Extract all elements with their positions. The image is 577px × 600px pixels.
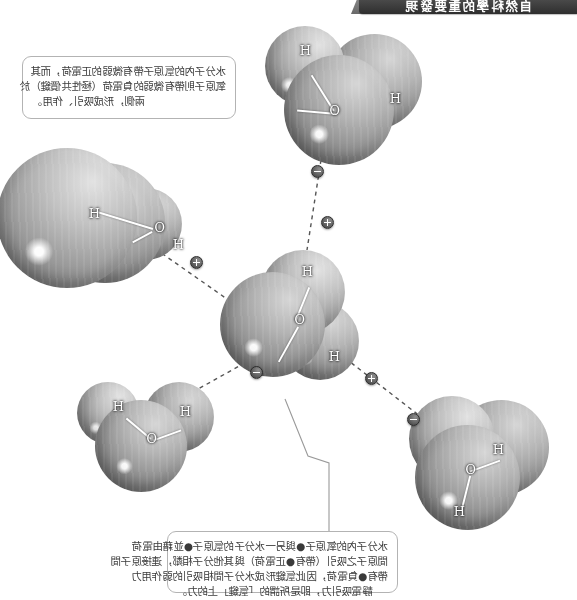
atom-label-o: O (146, 432, 157, 445)
atom-label-h: H (180, 405, 191, 418)
atom-label-h: H (493, 443, 504, 456)
atom-label-o: O (329, 104, 340, 117)
delta-negative-icon (311, 165, 324, 178)
atom-label-h: H (454, 505, 465, 518)
caption-box-polar-bond: 水分子內的氫原子帶有微弱的正電荷，而其 氧原子則帶有微弱的負電荷（極性共價鍵）於… (22, 56, 236, 119)
delta-positive-icon (321, 216, 334, 229)
delta-negative-icon (407, 413, 420, 426)
atom-label-h: H (300, 44, 311, 57)
atom-label-h: H (390, 92, 401, 105)
caption-line: 靜電吸引力，即是所謂的「氫鍵」上的力。 (177, 584, 388, 599)
atom-label-o: O (294, 313, 305, 326)
banner-title: 自然科學的重要發現 (404, 1, 532, 14)
banner-header: 自然科學的重要發現 (359, 0, 577, 14)
oxygen-sphere (415, 425, 520, 530)
atom-label-h: H (113, 400, 124, 413)
caption-box-hydrogen-bond: 水分子內的氧原子●與另一水分子的氫原子●並藉由電荷 間原子之吸引（帶有●正電荷）… (167, 531, 398, 593)
oxygen-sphere (95, 400, 187, 492)
caption-line: 兩側，形成吸引、作用。 (32, 94, 226, 109)
caption-line: 帶有●負電荷，因此氫鍵形成水分子間相吸引的弱作用力 (177, 569, 388, 584)
atom-label-h: H (89, 207, 100, 220)
caption-line: 間原子之吸引（帶有●正電荷）與其他分子相鄰，連接原子間 (177, 554, 388, 569)
atom-label-h: H (302, 265, 313, 278)
atom-label-h: H (173, 238, 184, 251)
mirrored-scan-content: 自然科學的重要發現 H H O (0, 0, 577, 600)
delta-negative-icon (250, 366, 263, 379)
caption-line: 水分子內的氫原子帶有微弱的正電荷，而其 (32, 64, 226, 79)
atom-label-h: H (329, 350, 340, 363)
caption-line: 氧原子則帶有微弱的負電荷（極性共價鍵）於 (32, 79, 226, 94)
figure-canvas: 自然科學的重要發現 H H O (0, 0, 577, 600)
atom-label-o: O (465, 463, 476, 476)
delta-positive-icon (190, 256, 203, 269)
delta-positive-icon (365, 372, 378, 385)
caption-line: 水分子內的氧原子●與另一水分子的氫原子●並藉由電荷 (177, 539, 388, 554)
atom-label-o: O (154, 221, 165, 234)
